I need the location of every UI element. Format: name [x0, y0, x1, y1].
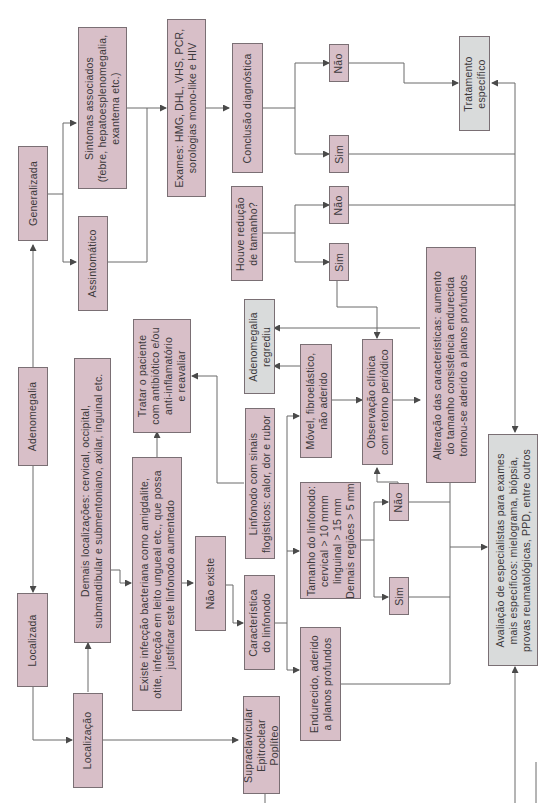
node-conclusao-sim: Sim — [329, 135, 349, 173]
node-tratar-label: Tratar o paciente com antibiótico e/ou a… — [136, 327, 188, 424]
node-endurecido-aderido: Endurecido, aderido a planos profundos — [300, 627, 341, 741]
node-conclusao-nao: Não — [329, 44, 349, 82]
node-reducao-nao-label: Não — [333, 195, 346, 215]
node-generalizada: Generalizada — [18, 146, 48, 241]
node-supraclavicular: Supraclavicular Epitroclear Poplíteo — [243, 696, 280, 794]
node-caracteristica-label: Característica do linfonodo — [247, 589, 273, 657]
node-movel-label: Móvel, fibroelástico, não aderido — [303, 353, 329, 450]
node-exames: Exames: HMG, DHL, VHS, PCR, sorologias m… — [167, 19, 206, 197]
node-observacao-clinica: Observação clínica com retorno periódico — [362, 339, 393, 465]
node-reducao-nao: Não — [329, 186, 349, 224]
node-sintomas-associados: Sintomas associados (febre, hepatoesplen… — [78, 27, 127, 189]
node-nao-existe: Não existe — [195, 536, 226, 631]
node-conclusao-nao-label: Não — [333, 53, 346, 73]
node-tratar-paciente: Tratar o paciente com antibiótico e/ou a… — [133, 319, 191, 433]
node-tamanho-nao: Não — [389, 483, 409, 521]
node-tamanho-sim-label: Sim — [393, 587, 406, 606]
node-supra-label: Supraclavicular Epitroclear Poplíteo — [243, 708, 280, 783]
node-localizacao-label: Localização — [82, 712, 95, 770]
node-localizada: Localizada — [17, 593, 48, 687]
node-localizada-label: Localizada — [26, 614, 39, 666]
node-observacao-label: Observação clínica com retorno periódico — [365, 349, 391, 455]
node-sintomas-label: Sintomas associados (febre, hepatoesplen… — [83, 34, 122, 182]
node-adenomegalia: Adenomegalia — [18, 367, 48, 466]
node-demais-label: Demais localizações: cervical, occipital… — [80, 373, 106, 628]
node-generalizada-label: Generalizada — [27, 161, 40, 226]
node-assintomatico-label: Assintomático — [87, 230, 100, 298]
node-assintomatico: Assintomático — [78, 216, 108, 311]
node-endurecido-label: Endurecido, aderido a planos profundos — [308, 635, 334, 733]
node-tratamento-especifico: Tratamento específico — [459, 36, 490, 131]
node-conclusao-sim-label: Sim — [333, 145, 346, 164]
node-caracteristica-linfonodo: Característica do linfonodo — [244, 575, 275, 670]
node-nao-existe-label: Não existe — [204, 558, 217, 610]
flowchart-canvas: Adenomegalia Generalizada Localizada Sin… — [0, 0, 553, 803]
node-tamanho-label: Tamanho do linfonodo: cervical > 10 mmm … — [305, 483, 357, 598]
node-movel-fibroelastico: Móvel, fibroelástico, não aderido — [300, 344, 332, 458]
node-demais-localizacoes: Demais localizações: cervical, occipital… — [74, 358, 111, 643]
node-conclusao-diagnostica: Conclusão diagnóstica — [232, 43, 263, 173]
node-infeccao-bacteriana: Existe infecção bacteriana como amigdali… — [132, 457, 182, 711]
node-houve-reducao: Houve redução de tamanho? — [231, 186, 263, 281]
node-localizacao: Localização — [73, 693, 103, 788]
node-alteracao-label: Alteração das características: aumento d… — [432, 270, 471, 459]
node-exames-label: Exames: HMG, DHL, VHS, PCR, sorologias m… — [174, 29, 200, 188]
node-tamanho-nao-label: Não — [393, 492, 406, 512]
node-avaliacao-label: Avaliação de especialistas para exames m… — [494, 449, 533, 652]
node-flogisticos-label: Linfonodo com sinais flogísticos: calor,… — [247, 414, 273, 552]
node-reducao-label: Houve redução de tamanho? — [234, 197, 260, 271]
node-tratamento-label: Tratamento específico — [462, 56, 488, 111]
node-reducao-sim-label: Sim — [333, 253, 346, 272]
node-tamanho-linfonodo: Tamanho do linfonodo: cervical > 10 mmm … — [300, 482, 361, 599]
node-adenomegalia-label: Adenomegalia — [27, 382, 40, 452]
node-adenomegalia-regrediu: Adenomegalia regrediu — [244, 299, 275, 394]
node-conclusao-label: Conclusão diagnóstica — [241, 53, 254, 163]
node-alteracao-caracteristicas: Alteração das características: aumento d… — [426, 247, 476, 483]
node-sinais-flogisticos: Linfonodo com sinais flogísticos: calor,… — [245, 408, 275, 559]
node-tamanho-sim: Sim — [389, 577, 409, 615]
node-regrediu-label: Adenomegalia regrediu — [247, 312, 273, 382]
node-avaliacao-especialistas: Avaliação de especialistas para exames m… — [488, 434, 538, 666]
node-infeccao-label: Existe infecção bacteriana como amigdali… — [138, 470, 177, 699]
node-reducao-sim: Sim — [329, 243, 349, 281]
